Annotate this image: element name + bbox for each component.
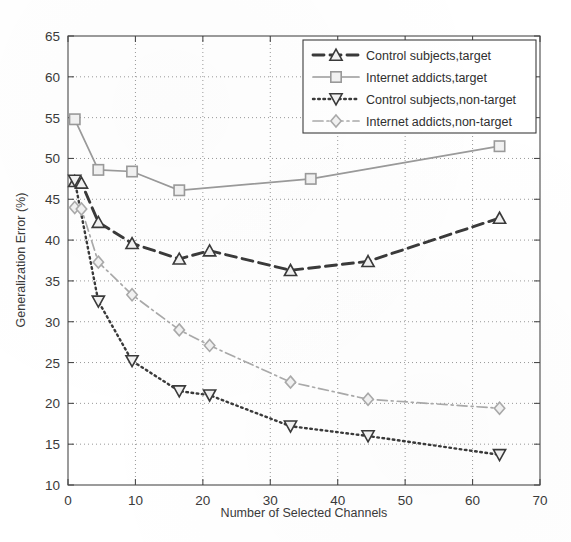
y-tick-label: 40 bbox=[45, 233, 60, 248]
series-0 bbox=[69, 176, 506, 276]
legend-label-0: Control subjects,target bbox=[366, 49, 492, 63]
data-point bbox=[174, 185, 184, 195]
data-point bbox=[204, 390, 216, 401]
y-tick-label: 55 bbox=[45, 111, 60, 126]
legend[interactable]: Control subjects,targetInternet addicts,… bbox=[303, 40, 536, 133]
data-point bbox=[93, 165, 103, 175]
series-3 bbox=[70, 201, 505, 414]
data-point bbox=[126, 356, 138, 367]
series-line bbox=[75, 207, 500, 408]
y-tick-label: 30 bbox=[45, 315, 60, 330]
legend-label-1: Internet addicts,target bbox=[366, 71, 487, 85]
data-point bbox=[493, 212, 505, 223]
data-point bbox=[306, 174, 316, 184]
data-point bbox=[126, 238, 138, 249]
y-tick-label: 15 bbox=[45, 437, 60, 452]
y-tick-labels: 101520253035404550556065 bbox=[45, 29, 60, 493]
y-tick-label: 35 bbox=[45, 274, 60, 289]
data-point bbox=[127, 166, 137, 176]
legend-label-3: Internet addicts,non-target bbox=[366, 115, 512, 129]
chart-figure: 101520253035404550556065 010203040506070… bbox=[0, 0, 571, 542]
y-tick-label: 20 bbox=[45, 396, 60, 411]
y-axis-title: Generalization Error (%) bbox=[14, 193, 28, 328]
x-tick-label: 20 bbox=[195, 493, 210, 508]
generalization-error-line-chart: 101520253035404550556065 010203040506070… bbox=[0, 0, 571, 542]
series-line bbox=[75, 181, 500, 455]
y-tick-label: 45 bbox=[45, 192, 60, 207]
data-point bbox=[92, 296, 104, 307]
y-tick-label: 50 bbox=[45, 151, 60, 166]
data-point bbox=[174, 324, 184, 336]
y-tick-label: 65 bbox=[45, 29, 60, 44]
legend-marker-1 bbox=[331, 72, 341, 82]
data-point bbox=[494, 141, 504, 151]
x-tick-label: 0 bbox=[64, 493, 72, 508]
data-point bbox=[204, 339, 214, 351]
y-tick-label: 60 bbox=[45, 70, 60, 85]
y-tick-label: 10 bbox=[45, 478, 60, 493]
series-line bbox=[75, 181, 500, 270]
x-tick-label: 10 bbox=[128, 493, 143, 508]
data-point bbox=[285, 376, 295, 388]
data-point bbox=[70, 114, 80, 124]
series-layer bbox=[69, 114, 506, 461]
y-tick-label: 25 bbox=[45, 356, 60, 371]
data-point bbox=[92, 216, 104, 227]
legend-label-2: Control subjects,non-target bbox=[366, 93, 517, 107]
x-tick-label: 70 bbox=[532, 493, 547, 508]
series-2 bbox=[69, 175, 506, 460]
x-tick-label: 50 bbox=[398, 493, 413, 508]
x-tick-label: 60 bbox=[465, 493, 480, 508]
data-point bbox=[494, 402, 504, 414]
x-axis-title: Number of Selected Channels bbox=[221, 506, 388, 520]
